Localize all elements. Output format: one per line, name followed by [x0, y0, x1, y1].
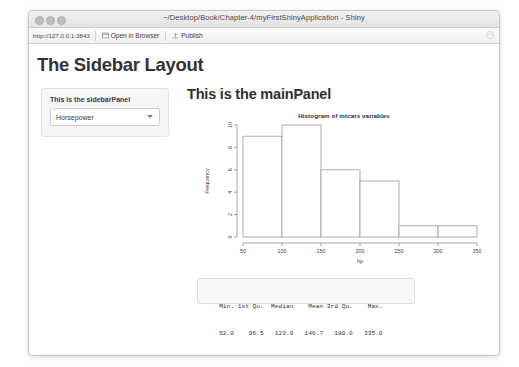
- y-axis-tick-label: 8: [227, 146, 233, 149]
- open-in-browser-label: Open in Browser: [111, 32, 159, 39]
- histogram-bar: [321, 170, 360, 237]
- publish-button[interactable]: Publish: [166, 32, 208, 39]
- main-panel: This is the mainPanel: [187, 86, 487, 102]
- url-display[interactable]: http://127.0.0.1:3843: [29, 32, 95, 39]
- summary-value-row: 52.0 96.5 123.0 146.7 180.0 335.0: [198, 329, 414, 338]
- x-axis-tick-label: 100: [278, 248, 287, 254]
- plot-title: Histogram of mtcars variables: [199, 112, 489, 119]
- x-axis-title: hp: [357, 258, 363, 264]
- x-axis-tick-label: 150: [317, 248, 326, 254]
- x-axis-tick-label: 350: [473, 248, 482, 254]
- publish-icon: [172, 32, 179, 39]
- y-axis-tick-label: 10: [227, 122, 233, 128]
- x-axis-tick-label: 250: [395, 248, 404, 254]
- summary-header-row: Min. 1st Qu. Median Mean 3rd Qu. Max.: [198, 302, 414, 311]
- page-bottom-shadow: [29, 353, 499, 356]
- chevron-down-icon: [147, 115, 153, 118]
- histogram-bar: [438, 226, 477, 237]
- page-title: The Sidebar Layout: [37, 54, 203, 76]
- publish-cloud-icon[interactable]: [485, 30, 495, 40]
- open-in-browser-button[interactable]: Open in Browser: [96, 32, 165, 39]
- histogram-bar: [243, 136, 282, 237]
- publish-label: Publish: [181, 32, 202, 39]
- window-title: ~/Desktop/Book/Chapter-4/myFirstShinyApp…: [29, 13, 499, 22]
- histogram-bar: [360, 181, 399, 237]
- variable-select[interactable]: Horsepower: [50, 108, 160, 126]
- plot-canvas: 0246810Frequency50100150200250300350hp: [199, 119, 489, 267]
- browser-window-icon: [102, 32, 109, 39]
- y-axis-title: Frequency: [204, 168, 210, 194]
- histogram-bar: [399, 226, 438, 237]
- shiny-app-body: The Sidebar Layout This is the sidebarPa…: [29, 44, 499, 356]
- x-axis-tick-label: 50: [240, 248, 246, 254]
- summary-output: Min. 1st Qu. Median Mean 3rd Qu. Max. 52…: [197, 278, 415, 304]
- main-panel-title: This is the mainPanel: [187, 86, 487, 102]
- y-axis-tick-label: 0: [227, 236, 233, 239]
- histogram-plot: Histogram of mtcars variables 0246810Fre…: [199, 112, 489, 272]
- x-axis-tick-label: 200: [356, 248, 365, 254]
- variable-select-value: Horsepower: [51, 114, 94, 121]
- y-axis-tick-label: 4: [227, 191, 233, 194]
- rstudio-shiny-window: ~/Desktop/Book/Chapter-4/myFirstShinyApp…: [28, 10, 500, 356]
- histogram-bar: [282, 125, 321, 237]
- y-axis-tick-label: 2: [227, 213, 233, 216]
- window-titlebar: ~/Desktop/Book/Chapter-4/myFirstShinyApp…: [29, 11, 499, 28]
- shiny-viewer-toolbar: http://127.0.0.1:3843 Open in Browser: [29, 28, 499, 44]
- x-axis-tick-label: 300: [434, 248, 443, 254]
- y-axis-tick-label: 6: [227, 168, 233, 171]
- sidebar-panel-label: This is the sidebarPanel: [50, 96, 160, 103]
- screenshot-root: ~/Desktop/Book/Chapter-4/myFirstShinyApp…: [0, 0, 519, 367]
- sidebar-panel: This is the sidebarPanel Horsepower: [41, 88, 169, 137]
